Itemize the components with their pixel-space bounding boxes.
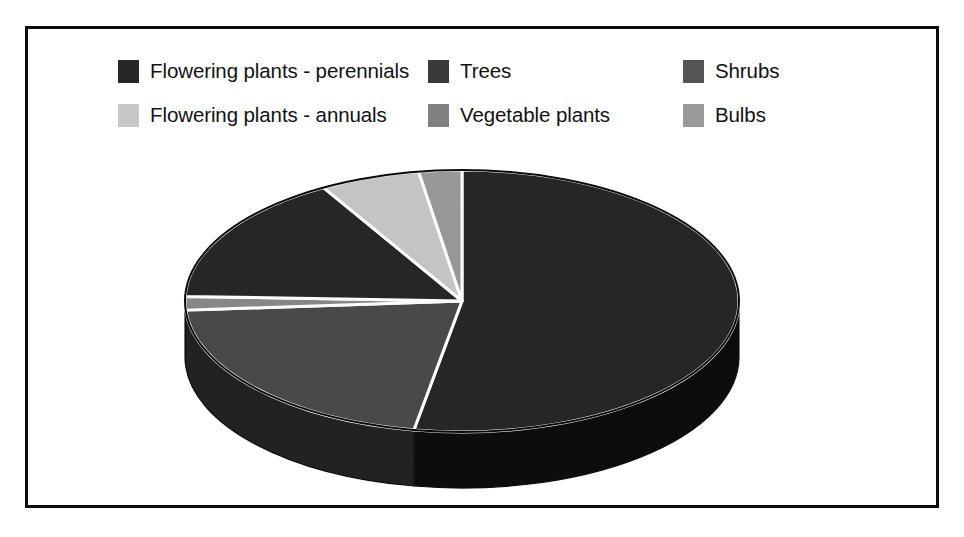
clipped-caption-text: — — — — — — — — — — — — —: [60, 0, 375, 5]
chart-frame: Flowering plants - perennials Trees Shru…: [25, 26, 939, 508]
pie-chart-svg: [28, 29, 936, 505]
clipped-caption-strip: — — — — — — — — — — — — —: [0, 0, 964, 20]
chart-page: — — — — — — — — — — — — — Flowering plan…: [0, 0, 964, 537]
pie-chart-area: [28, 29, 936, 505]
pie-top-surface: [185, 170, 739, 432]
